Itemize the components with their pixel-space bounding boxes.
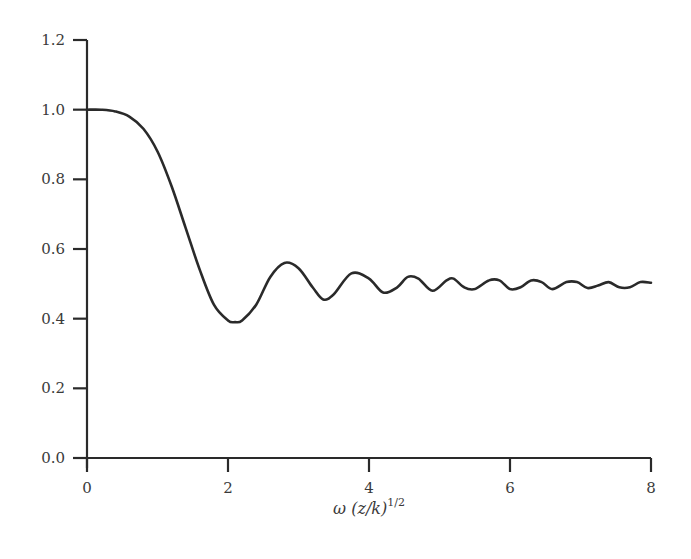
x-axis-title: ω (z/k)1/2 bbox=[333, 496, 405, 518]
y-tick-label: 1.2 bbox=[41, 31, 65, 49]
x-axis-title-main: ω (z/k) bbox=[333, 499, 387, 518]
x-axis-title-superscript: 1/2 bbox=[387, 496, 405, 509]
line-chart: 0.00.20.40.60.81.01.2 02468 ω (z/k)1/2 bbox=[0, 0, 691, 559]
y-tick-label: 0.4 bbox=[41, 310, 65, 328]
y-tick-label: 0.0 bbox=[41, 449, 65, 467]
x-tick-label: 4 bbox=[364, 479, 374, 497]
y-tick-label: 1.0 bbox=[41, 101, 65, 119]
x-tick-label: 6 bbox=[505, 479, 515, 497]
y-tick-label: 0.6 bbox=[41, 240, 65, 258]
x-tick-label: 2 bbox=[223, 479, 233, 497]
x-axis: 02468 bbox=[73, 458, 656, 497]
x-tick-label: 8 bbox=[646, 479, 656, 497]
data-line bbox=[87, 110, 651, 323]
x-tick-label: 0 bbox=[82, 479, 92, 497]
y-tick-label: 0.8 bbox=[41, 170, 65, 188]
y-axis: 0.00.20.40.60.81.01.2 bbox=[41, 31, 87, 468]
y-tick-label: 0.2 bbox=[41, 379, 65, 397]
